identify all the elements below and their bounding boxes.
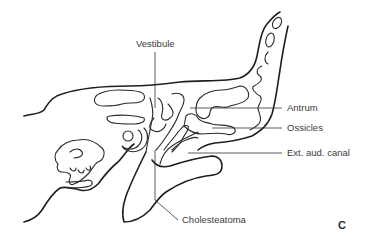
- petrous-small-cell: [86, 166, 91, 170]
- petrous-cells-inner: [70, 149, 82, 158]
- petrous-cells: [55, 139, 104, 184]
- bone-upper-outline: [24, 12, 280, 116]
- air-cell: [265, 52, 268, 64]
- cholesteatoma-mass: [123, 152, 222, 222]
- bone-lower-left-outline: [24, 144, 134, 222]
- upper-cell-cluster: [94, 90, 144, 106]
- petrous-small-cell: [78, 170, 84, 173]
- panel-letter: C: [338, 219, 346, 231]
- label-ossicles: Ossicles: [287, 123, 323, 133]
- label-cholesteatoma: Cholesteatoma: [182, 215, 246, 225]
- air-cell: [264, 32, 275, 48]
- mastoid-right-outline: [198, 26, 288, 150]
- air-cell-chain: [250, 66, 262, 130]
- label-vestibule: Vestibule: [136, 39, 175, 49]
- temporal-bone-diagram: [0, 0, 365, 240]
- label-ext-aud-canal: Ext. aud. canal: [287, 148, 350, 158]
- antrum-cells: [196, 86, 249, 119]
- antrum-cells-2: [184, 114, 235, 135]
- label-antrum: Antrum: [287, 103, 318, 113]
- petrous-small-cell: [70, 168, 76, 171]
- vestibule-structure: [158, 98, 173, 120]
- cochlea-coil: [123, 131, 133, 141]
- leader-cholesteatoma: [155, 150, 178, 220]
- semicircular-canal: [107, 115, 144, 124]
